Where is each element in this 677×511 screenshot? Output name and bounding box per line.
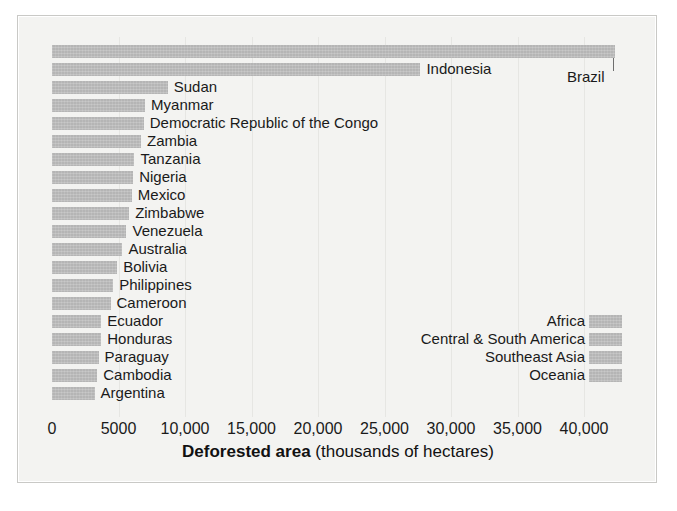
bar-row[interactable]: Nigeria	[52, 171, 650, 184]
plot-area: BrazilIndonesiaSudanMyanmarDemocratic Re…	[52, 45, 650, 415]
bar[interactable]	[52, 207, 129, 220]
bar-label: Zambia	[147, 133, 197, 149]
legend-swatch	[589, 369, 622, 382]
bar-row[interactable]: Zimbabwe	[52, 207, 650, 220]
bar[interactable]	[52, 135, 141, 148]
x-tick-label: 35,000	[493, 419, 542, 439]
x-tick-label: 15,000	[227, 419, 276, 439]
bar-row[interactable]: Cameroon	[52, 297, 650, 310]
legend-label: Southeast Asia	[485, 349, 585, 365]
bar[interactable]	[52, 387, 95, 400]
bar-label: Zimbabwe	[135, 205, 204, 221]
bar-row[interactable]: Indonesia	[52, 63, 650, 76]
bar[interactable]	[52, 117, 144, 130]
legend-swatch	[589, 315, 622, 328]
bar-label: Venezuela	[132, 223, 202, 239]
bar[interactable]	[52, 261, 117, 274]
bar-label: Mexico	[138, 187, 186, 203]
x-tick-label: 0	[48, 419, 57, 439]
bar-label: Myanmar	[151, 97, 214, 113]
x-axis-title-rest: (thousands of hectares)	[311, 442, 494, 461]
bar-row[interactable]: Australia	[52, 243, 650, 256]
bar-label: Bolivia	[123, 259, 167, 275]
x-axis-title-bold: Deforested area	[182, 442, 311, 461]
bar-row[interactable]: Brazil	[52, 45, 650, 58]
x-axis-ticks: 0500010,00015,00020,00025,00030,00035,00…	[18, 419, 658, 443]
bar[interactable]	[52, 81, 168, 94]
bar-label: Sudan	[174, 79, 217, 95]
bar-label: Nigeria	[139, 169, 187, 185]
bar-row[interactable]: Bolivia	[52, 261, 650, 274]
legend-swatch	[589, 333, 622, 346]
bar-label: Cameroon	[117, 295, 187, 311]
legend-row[interactable]: Oceania	[52, 369, 622, 382]
chart-figure: BrazilIndonesiaSudanMyanmarDemocratic Re…	[17, 15, 657, 483]
bar-row[interactable]: Argentina	[52, 387, 650, 400]
bar-row[interactable]: Venezuela	[52, 225, 650, 238]
x-tick-label: 5000	[101, 419, 137, 439]
bar-label: Australia	[128, 241, 186, 257]
bar[interactable]	[52, 63, 420, 76]
bar-row[interactable]: Tanzania	[52, 153, 650, 166]
legend-label: Central & South America	[421, 331, 585, 347]
bar[interactable]	[52, 45, 615, 58]
bar[interactable]	[52, 99, 145, 112]
bar[interactable]	[52, 153, 134, 166]
x-tick-label: 30,000	[427, 419, 476, 439]
bar[interactable]	[52, 243, 122, 256]
bar-row[interactable]: Sudan	[52, 81, 650, 94]
bar-label: Philippines	[119, 277, 192, 293]
bar-row[interactable]: Zambia	[52, 135, 650, 148]
bar-row[interactable]: Myanmar	[52, 99, 650, 112]
bar-label: Indonesia	[426, 61, 491, 77]
legend-row[interactable]: Central & South America	[52, 333, 622, 346]
bar-row[interactable]: Mexico	[52, 189, 650, 202]
bar-label: Tanzania	[140, 151, 200, 167]
bar-label: Democratic Republic of the Congo	[150, 115, 378, 131]
x-tick-label: 10,000	[161, 419, 210, 439]
bar[interactable]	[52, 225, 126, 238]
x-axis-title: Deforested area (thousands of hectares)	[18, 441, 658, 463]
bar-row[interactable]: Philippines	[52, 279, 650, 292]
legend-label: Oceania	[529, 367, 585, 383]
bar-label: Argentina	[101, 385, 165, 401]
x-tick-label: 20,000	[294, 419, 343, 439]
x-tick-label: 25,000	[360, 419, 409, 439]
legend-swatch	[589, 351, 622, 364]
bar-row[interactable]: Democratic Republic of the Congo	[52, 117, 650, 130]
bar[interactable]	[52, 279, 113, 292]
bar[interactable]	[52, 189, 132, 202]
legend-label: Africa	[547, 313, 585, 329]
x-tick-label: 40,000	[560, 419, 609, 439]
legend-row[interactable]: Southeast Asia	[52, 351, 622, 364]
bar[interactable]	[52, 297, 111, 310]
bar[interactable]	[52, 171, 133, 184]
legend-row[interactable]: Africa	[52, 315, 622, 328]
